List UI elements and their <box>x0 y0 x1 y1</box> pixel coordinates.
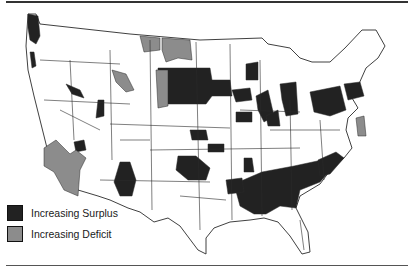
region-minnesota-south <box>246 62 258 80</box>
legend: Increasing Surplus Increasing Deficit <box>7 203 118 245</box>
region-idaho-snake <box>66 84 84 98</box>
region-kansas <box>190 130 208 140</box>
region-tennessee-west <box>226 178 244 194</box>
region-oregon-valley <box>30 52 36 68</box>
legend-item-surplus: Increasing Surplus <box>7 203 118 223</box>
legend-item-deficit: Increasing Deficit <box>7 224 118 244</box>
region-virginia <box>356 116 366 136</box>
surplus-swatch <box>7 205 23 221</box>
region-north-dakota <box>162 38 192 62</box>
bottom-rule <box>6 265 408 266</box>
deficit-swatch <box>7 226 23 242</box>
region-iowa <box>232 88 252 102</box>
legend-label-surplus: Increasing Surplus <box>31 207 118 219</box>
region-wyoming <box>156 70 168 108</box>
region-new-england <box>344 82 364 100</box>
region-carolinas <box>318 152 344 176</box>
region-great-plains <box>158 68 232 104</box>
region-washington-coast <box>28 14 40 44</box>
region-idaho-east <box>112 70 134 92</box>
legend-label-deficit: Increasing Deficit <box>31 228 112 240</box>
region-kansas-east <box>208 144 224 152</box>
region-oklahoma <box>176 156 210 180</box>
region-missouri <box>236 112 252 122</box>
region-ohio-penn <box>310 86 346 116</box>
region-arkansas <box>244 158 254 172</box>
region-arizona <box>114 162 136 196</box>
region-michigan <box>280 82 298 116</box>
